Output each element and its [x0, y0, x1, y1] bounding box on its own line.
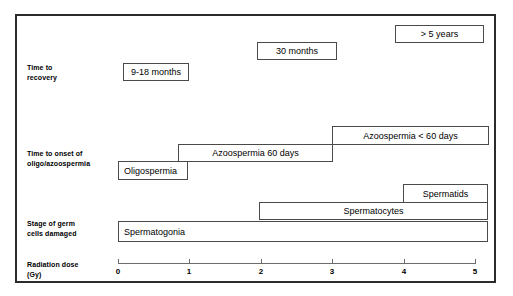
axis-tick-label-0: 0 [111, 267, 125, 276]
recovery-box-label: 9-18 months [131, 67, 181, 77]
germ-cell-box-label: Spermatogonia [124, 227, 185, 237]
recovery-box-9-18-months[interactable]: 9-18 months [123, 63, 189, 81]
axis-tick-2 [261, 259, 262, 264]
onset-box-label: Azoospermia < 60 days [363, 131, 457, 141]
germ-cell-box-label: Spermatids [423, 189, 469, 199]
row-label-stage-of-germ-cells: Stage of germ cells damaged [27, 219, 77, 238]
onset-box-azoospermia-60-days[interactable]: Azoospermia 60 days [178, 144, 333, 162]
onset-box-label: Oligospermia [124, 166, 177, 176]
axis-tick-label-4: 4 [397, 267, 411, 276]
axis-tick-3 [332, 259, 333, 264]
germ-cell-box-spermatocytes[interactable]: Spermatocytes [259, 202, 488, 220]
recovery-box-label: 30 months [276, 46, 318, 56]
onset-box-oligospermia[interactable]: Oligospermia [118, 161, 188, 180]
axis-tick-4 [404, 259, 405, 264]
germ-cell-box-spermatogonia[interactable]: Spermatogonia [118, 221, 488, 242]
axis-tick-label-2: 2 [254, 267, 268, 276]
figure-root: Time to recovery Time to onset of oligo/… [0, 0, 513, 296]
onset-box-label: Azoospermia 60 days [212, 148, 299, 158]
recovery-box-30-months[interactable]: 30 months [257, 42, 337, 60]
germ-cell-box-spermatids[interactable]: Spermatids [403, 184, 488, 203]
axis-tick-label-1: 1 [182, 267, 196, 276]
axis-line [118, 263, 475, 264]
axis-tick-label-3: 3 [325, 267, 339, 276]
recovery-box-label: > 5 years [421, 29, 458, 39]
onset-box-azoospermia-under-60-days[interactable]: Azoospermia < 60 days [332, 126, 489, 145]
axis-tick-5 [475, 259, 476, 264]
row-label-time-to-onset: Time to onset of oligo/azoospermia [27, 149, 90, 168]
figure-frame: Time to recovery Time to onset of oligo/… [15, 14, 496, 283]
axis-tick-1 [189, 259, 190, 264]
row-label-radiation-dose: Radiation dose (Gy) [27, 260, 79, 279]
axis-tick-label-5: 5 [468, 267, 482, 276]
axis-tick-0 [118, 259, 119, 264]
recovery-box-over-5-years[interactable]: > 5 years [395, 25, 484, 43]
row-label-time-to-recovery: Time to recovery [27, 63, 57, 82]
germ-cell-box-label: Spermatocytes [343, 206, 403, 216]
